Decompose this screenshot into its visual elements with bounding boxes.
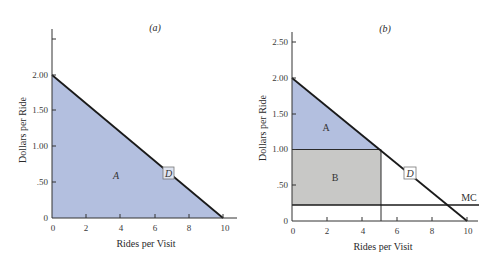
x-tick-label: 4 — [361, 226, 366, 236]
y-tick-label: 1.00 — [32, 141, 48, 151]
figure: 0 .50 1.00 1.50 2.00 0 2 4 6 8 10 Rides … — [0, 0, 499, 264]
region-a-label: A — [322, 122, 330, 133]
x-tick-label: 0 — [51, 223, 56, 233]
y-axis-label: Dollars per Ride — [257, 94, 268, 161]
x-tick-label: 10 — [464, 226, 474, 236]
y-tick-label: 0 — [284, 216, 289, 226]
x-tick-label: 6 — [395, 226, 400, 236]
y-tick-label: 1.50 — [32, 105, 48, 115]
x-tick-label: 8 — [430, 226, 435, 236]
x-tick-label: 6 — [153, 223, 158, 233]
mc-label: MC — [461, 192, 477, 203]
panel-a: 0 .50 1.00 1.50 2.00 0 2 4 6 8 10 Rides … — [17, 22, 237, 249]
y-tick-label: 2.50 — [272, 37, 288, 47]
x-tick-label: 2 — [325, 226, 330, 236]
demand-label: D — [164, 168, 173, 179]
panel-title: (a) — [149, 22, 161, 34]
x-ticks — [327, 217, 467, 221]
x-tick-label: 0 — [291, 226, 296, 236]
x-tick-label: 8 — [187, 223, 192, 233]
panel-title: (b) — [379, 23, 391, 35]
y-tick-label: 1.00 — [272, 144, 288, 154]
x-tick-label: 2 — [84, 223, 89, 233]
y-tick-label: 1.50 — [272, 109, 288, 119]
region-b-label: B — [332, 172, 339, 183]
x-axis-label: Rides per Visit — [116, 238, 175, 249]
y-tick-label: .50 — [37, 177, 49, 187]
x-tick-label: 10 — [221, 223, 231, 233]
y-tick-label: 2.00 — [32, 70, 48, 80]
y-tick-label: 0 — [44, 213, 49, 223]
x-axis-label: Rides per Visit — [353, 241, 412, 252]
panel-b: 0 .50 1.00 1.50 2.00 2.50 0 2 4 6 8 10 R… — [257, 23, 479, 252]
region-a-label: A — [112, 170, 120, 181]
y-axis-label: Dollars per Ride — [17, 96, 28, 163]
x-tick-label: 4 — [119, 223, 124, 233]
demand-label: D — [405, 168, 414, 179]
y-tick-label: .50 — [277, 180, 289, 190]
y-tick-label: 2.00 — [272, 73, 288, 83]
